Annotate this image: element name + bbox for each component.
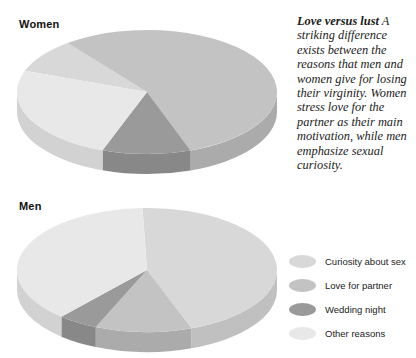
legend-swatch-other xyxy=(289,327,316,340)
figure-love-versus-lust: Women Men Love versus lust A striking di… xyxy=(0,0,416,358)
legend-swatch-love xyxy=(289,279,316,292)
legend: Curiosity about sex Love for partner Wed… xyxy=(289,249,416,345)
legend-item-love[interactable]: Love for partner xyxy=(289,273,416,297)
legend-label-wedding: Wedding night xyxy=(325,304,386,315)
legend-label-curiosity: Curiosity about sex xyxy=(325,256,406,267)
legend-item-curiosity[interactable]: Curiosity about sex xyxy=(289,249,416,273)
legend-swatch-curiosity xyxy=(289,255,316,268)
pie-chart-men xyxy=(8,196,286,356)
pie-women-svg xyxy=(8,18,286,178)
caption-lead: Love versus lust xyxy=(297,14,379,28)
pie-men-svg xyxy=(8,196,286,356)
legend-item-other[interactable]: Other reasons xyxy=(289,321,416,345)
caption-body: A striking difference exists between the… xyxy=(297,14,407,172)
legend-label-love: Love for partner xyxy=(325,280,392,291)
legend-label-other: Other reasons xyxy=(325,328,385,339)
figure-caption: Love versus lust A striking difference e… xyxy=(297,14,411,172)
legend-swatch-wedding xyxy=(289,303,316,316)
legend-item-wedding[interactable]: Wedding night xyxy=(289,297,416,321)
pie-chart-women xyxy=(8,18,286,178)
